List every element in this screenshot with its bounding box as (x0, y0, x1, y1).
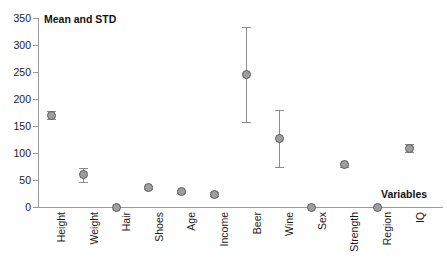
y-axis-tick-label: 150 (0, 121, 31, 132)
error-bar-cap (275, 110, 284, 111)
x-axis-category-label: Hair (121, 212, 132, 231)
x-axis-category-label: Sex (317, 212, 328, 230)
y-axis-tick (33, 72, 38, 73)
x-axis-caption: Variables (381, 188, 427, 200)
y-axis-tick (33, 45, 38, 46)
data-point-marker[interactable] (307, 203, 316, 212)
x-axis-category-label: Age (186, 212, 197, 231)
y-axis-tick (33, 207, 38, 208)
error-bar-cap (79, 182, 88, 183)
x-axis-category-label: Height (56, 212, 67, 242)
x-axis-category-label: Wine (284, 212, 295, 236)
y-axis-tick (33, 18, 38, 19)
y-axis-tick-label: 350 (0, 13, 31, 24)
x-axis-category-label: Income (219, 212, 230, 246)
chart-container: 050100150200250300350 Mean and STD Varia… (0, 0, 447, 270)
y-axis-tick-label: 300 (0, 40, 31, 51)
data-point-marker[interactable] (47, 111, 56, 120)
x-axis-category-label: IQ (415, 212, 426, 223)
error-bar-cap (275, 167, 284, 168)
y-axis-line (38, 18, 39, 208)
y-axis-caption: Mean and STD (44, 13, 116, 25)
y-axis-tick-label: 200 (0, 94, 31, 105)
x-axis-category-label: Beer (252, 212, 263, 234)
x-axis-category-label: Strength (349, 212, 360, 252)
data-point-marker[interactable] (340, 160, 349, 169)
y-axis-tick (33, 180, 38, 181)
x-axis-category-label: Shoes (154, 212, 165, 242)
y-axis-tick-label: 250 (0, 67, 31, 78)
y-axis-tick (33, 99, 38, 100)
y-axis-tick-label: 50 (0, 175, 31, 186)
y-axis-tick (33, 153, 38, 154)
y-axis-tick-label: 100 (0, 148, 31, 159)
y-axis-tick (33, 126, 38, 127)
x-axis-category-label: Weight (89, 212, 100, 245)
data-point-marker[interactable] (373, 203, 382, 212)
x-axis-category-label: Region (382, 212, 393, 245)
error-bar-cap (79, 168, 88, 169)
data-point-marker[interactable] (275, 134, 284, 143)
y-axis-tick-label: 0 (0, 202, 31, 213)
x-axis-line (38, 207, 443, 208)
data-point-marker[interactable] (177, 187, 186, 196)
data-point-marker[interactable] (144, 183, 153, 192)
data-point-marker[interactable] (112, 203, 121, 212)
error-bar-cap (242, 122, 251, 123)
data-point-marker[interactable] (405, 144, 414, 153)
data-point-marker[interactable] (79, 170, 88, 179)
data-point-marker[interactable] (210, 190, 219, 199)
data-point-marker[interactable] (242, 70, 251, 79)
error-bar-cap (242, 27, 251, 28)
